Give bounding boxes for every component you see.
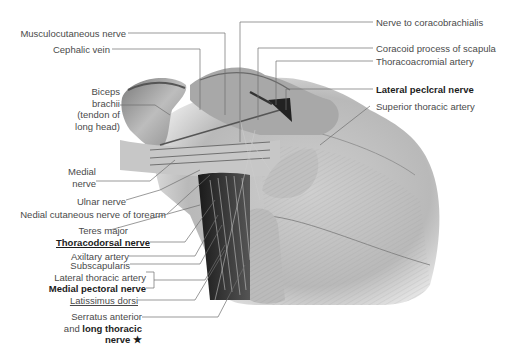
label-cephalic-vein: Cephalic vein	[53, 44, 110, 55]
label-nerve-to-coracobrachialis: Nerve to coracobrachialis	[376, 17, 483, 28]
label-medial-nerve: Medial nerve	[68, 166, 96, 189]
label-ulnar-nerve: Ulnar nerve	[77, 196, 126, 207]
label-line: Medial	[68, 166, 96, 178]
label-line-bold: nerve ★	[64, 334, 142, 346]
label-thoracoacromial-artery: Thoracoacromial artery	[376, 56, 474, 67]
label-lateral-pectoral-nerve: Lateral peclcral nerve	[376, 84, 474, 95]
label-medial-cutaneous-nerve: Nedial cutaneous nerve of torearm	[20, 209, 166, 220]
label-latissimus-dorsi: Latissimus dorsi	[70, 295, 138, 306]
label-line: Serratus anterior	[64, 311, 142, 323]
label-line: nerve	[68, 178, 96, 190]
label-word-bold: long thoracic	[82, 323, 142, 334]
label-serratus-anterior: Serratus anterior and long thoracic nerv…	[64, 311, 142, 346]
anatomy-figure: Musculocutaneous nerve Cephalic vein Bic…	[0, 0, 508, 362]
label-line: Biceps	[75, 86, 120, 98]
label-teres-major: Teres major	[78, 225, 128, 236]
label-line: long head)	[75, 121, 120, 133]
label-biceps-brachii: Biceps brachii (tendon of long head)	[75, 86, 120, 132]
label-medial-pectoral-nerve: Medial pectoral nerve	[49, 283, 146, 294]
label-thoracodorsal-nerve: Thoracodorsal nerve	[56, 237, 150, 248]
label-subscapularis: Subscapularis	[70, 260, 130, 271]
label-coracoid-process: Coracoid process of scapula	[376, 43, 496, 54]
label-line: (tendon of	[75, 109, 120, 121]
label-line: brachii	[75, 98, 120, 110]
label-line: and long thoracic	[64, 323, 142, 335]
label-superior-thoracic-artery: Superior thoracic artery	[376, 101, 475, 112]
label-word: and	[64, 323, 80, 334]
label-lateral-thoracic-artery: Lateral thoracic artery	[54, 272, 146, 283]
label-musculocutaneous-nerve: Musculocutaneous nerve	[20, 28, 126, 39]
